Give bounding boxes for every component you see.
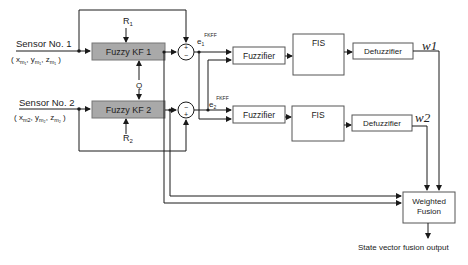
sensor-2-label: Sensor No. 2: [19, 97, 74, 108]
e1-label: e1FKFF: [197, 32, 217, 47]
sensor-1-input: Sensor No. 1 ( xm₁, ym₁, zm₁ ): [11, 38, 90, 65]
sensor-2-coords: ( xm2, ym₂, zm₂ ): [14, 113, 66, 123]
svg-text:−: −: [184, 52, 188, 59]
svg-text:FIS: FIS: [311, 110, 325, 120]
w2-label: w2: [415, 110, 431, 125]
defuzzifier-1-block: Defuzzifier: [353, 43, 413, 59]
svg-text:Fuzzifier: Fuzzifier: [243, 110, 275, 120]
svg-text:+: +: [184, 111, 188, 118]
svg-text:FIS: FIS: [312, 38, 326, 48]
fuzzifier-2-block: Fuzzifier: [233, 106, 285, 123]
summing-junction-2: − +: [178, 102, 194, 118]
svg-text:Weighted: Weighted: [412, 197, 446, 206]
fis-1-block: FIS: [293, 34, 344, 75]
r2-label: R2: [123, 133, 134, 144]
e2-label: e2FKFF: [209, 95, 229, 110]
svg-text:Defuzzifier: Defuzzifier: [363, 119, 401, 128]
defuzzifier-2-block: Defuzzifier: [352, 115, 412, 131]
fuzzy-kf-1-block: Fuzzy KF 1: [92, 43, 165, 60]
fuzzy-kf-2-block: Fuzzy KF 2: [92, 101, 165, 118]
weighted-fusion-block: Weighted Fusion: [403, 192, 455, 223]
svg-text:Fuzzifier: Fuzzifier: [243, 51, 275, 61]
svg-text:+: +: [184, 44, 188, 51]
svg-text:Defuzzifier: Defuzzifier: [364, 47, 402, 56]
fis-2-block: FIS: [292, 106, 344, 141]
sensor-1-coords: ( xm₁, ym₁, zm₁ ): [11, 55, 61, 65]
svg-text:Fusion: Fusion: [417, 207, 441, 216]
fuzzifier-1-block: Fuzzifier: [233, 47, 285, 64]
q-label: Q: [136, 81, 142, 90]
svg-text:−: −: [184, 104, 188, 111]
sensor-1-label: Sensor No. 1: [16, 38, 71, 49]
r1-label: R1: [123, 16, 134, 27]
svg-text:Fuzzy KF 1: Fuzzy KF 1: [106, 47, 152, 57]
summing-junction-1: + −: [178, 44, 194, 60]
fusion-block-diagram: Sensor No. 1 ( xm₁, ym₁, zm₁ ) Sensor No…: [0, 0, 468, 265]
output-label: State vector fusion output: [358, 243, 450, 252]
svg-text:Fuzzy KF 2: Fuzzy KF 2: [106, 105, 152, 115]
